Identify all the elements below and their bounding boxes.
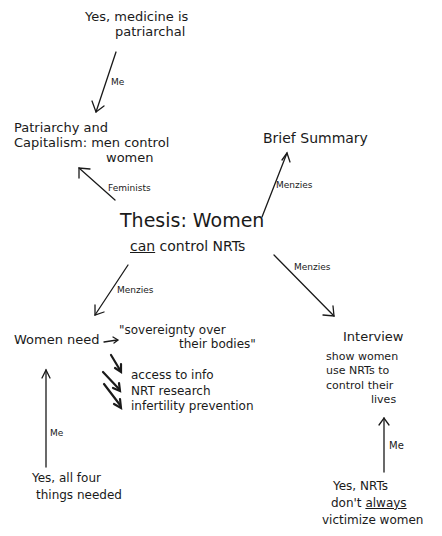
women-need-item-sovereignty: "sovereignty over their bodies" (119, 324, 256, 352)
edge-label-menzies-interview: Menzies (294, 262, 330, 272)
node-brief-summary: Brief Summary (263, 130, 368, 146)
edge-label-me-left: Me (50, 428, 63, 438)
arrow-me-to-interview (379, 418, 389, 472)
arrow-me-to-women-need (42, 370, 50, 467)
node-women-need: Women need (14, 333, 100, 348)
women-need-item-access: access to info (131, 368, 254, 384)
arrows-need-items (103, 355, 121, 408)
edge-label-menzies-women: Menzies (117, 285, 153, 295)
women-need-item-infertility: infertility prevention (131, 399, 254, 415)
emphasis-can: can (130, 238, 155, 254)
edge-label-feminists: Feminists (108, 183, 151, 193)
node-thesis: Thesis: Women (120, 209, 264, 232)
node-thesis-line2: can control NRTs (130, 238, 245, 254)
edge-label-me-top: Me (111, 77, 124, 87)
node-yes-all-four: Yes, all four things needed (32, 470, 122, 504)
argument-map-diagram: Yes, medicine is patriarchal Me Patriarc… (0, 0, 442, 536)
node-yes-medicine-patriarchal: Yes, medicine is patriarchal (85, 10, 188, 40)
women-need-item-research: NRT research (131, 384, 254, 400)
node-interview-detail: show women use NRTs to control their liv… (326, 350, 398, 407)
node-patriarchy-capitalism: Patriarchy and Capitalism: men control w… (14, 121, 169, 166)
node-interview: Interview (343, 330, 403, 345)
emphasis-always: always (365, 496, 406, 510)
edge-label-me-right: Me (389, 440, 404, 451)
diagram-arrows (0, 0, 442, 536)
arrow-need-to-sovereignty (104, 337, 118, 343)
women-need-items-list: access to info NRT research infertility … (131, 368, 254, 415)
edge-label-menzies-summary: Menzies (276, 180, 312, 190)
node-yes-nrts: Yes, NRTs don't always victimize women (322, 478, 423, 528)
